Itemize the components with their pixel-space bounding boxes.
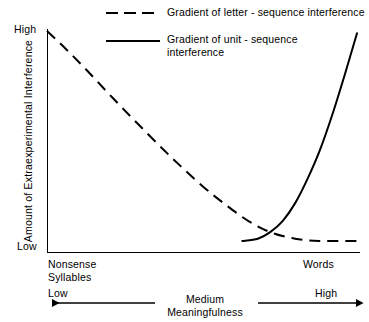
meaningfulness-scale-arrows: [0, 0, 369, 322]
x-scale-label-medium-meaningfulness: Medium Meaningfulness: [140, 293, 270, 319]
chart-figure: Gradient of letter - sequence interferen…: [0, 0, 369, 322]
x-scale-label-high: High: [315, 287, 337, 299]
x-scale-label-low: Low: [48, 287, 68, 299]
